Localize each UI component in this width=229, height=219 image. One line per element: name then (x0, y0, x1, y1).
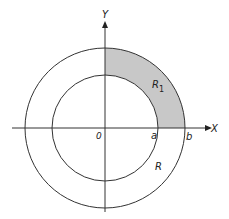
shaded-region-r1 (105, 48, 185, 128)
origin-label: 0 (96, 131, 102, 141)
annulus-diagram: X Y 0 a b R1 R (0, 0, 229, 219)
y-axis-arrow-icon (102, 21, 108, 28)
x-axis-label: X (210, 123, 219, 134)
region-r1-subscript: 1 (159, 85, 164, 94)
point-b-label: b (186, 131, 192, 142)
region-r-label: R (155, 161, 162, 172)
point-a-label: a (151, 130, 157, 141)
y-axis-label: Y (102, 9, 109, 20)
